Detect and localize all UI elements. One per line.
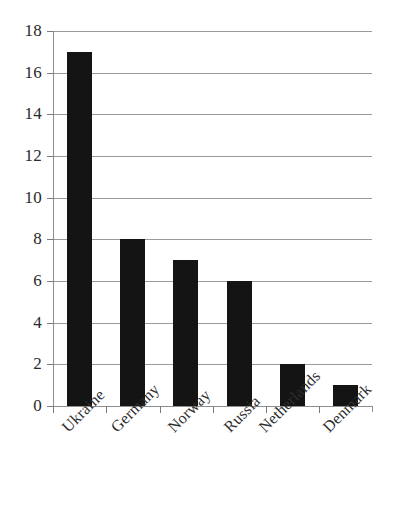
- x-axis-end-tick: [372, 406, 373, 412]
- y-tick-mark-18: [47, 31, 54, 32]
- y-tick-label-12: 12: [2, 147, 42, 164]
- x-tick-mark-1: [106, 406, 107, 413]
- x-tick-mark-3: [213, 406, 214, 413]
- y-tick-mark-6: [47, 281, 54, 282]
- y-tick-mark-12: [47, 156, 54, 157]
- x-tick-mark-2: [160, 406, 161, 413]
- plot-area: [53, 31, 372, 406]
- y-tick-label-4: 4: [2, 314, 42, 331]
- y-tick-mark-2: [47, 364, 54, 365]
- gridline-2: [53, 364, 372, 365]
- bar-chart: 18 16 14 12 10 8 6 4 2 0 Ukraine Germany…: [0, 0, 394, 507]
- gridline-8: [53, 239, 372, 240]
- y-tick-mark-14: [47, 114, 54, 115]
- y-tick-mark-8: [47, 239, 54, 240]
- y-tick-label-0: 0: [2, 397, 42, 414]
- y-tick-label-16: 16: [2, 64, 42, 81]
- y-tick-label-8: 8: [2, 230, 42, 247]
- y-tick-mark-16: [47, 73, 54, 74]
- y-tick-label-14: 14: [2, 105, 42, 122]
- gridline-14: [53, 114, 372, 115]
- bar-russia: [227, 281, 252, 406]
- y-tick-mark-4: [47, 323, 54, 324]
- x-tick-mark-5: [319, 406, 320, 413]
- gridline-10: [53, 198, 372, 199]
- y-tick-label-10: 10: [2, 189, 42, 206]
- y-tick-label-18: 18: [2, 22, 42, 39]
- y-tick-mark-10: [47, 198, 54, 199]
- bar-ukraine: [67, 52, 92, 406]
- bar-germany: [120, 239, 145, 406]
- gridline-18: [53, 31, 372, 32]
- y-tick-label-6: 6: [2, 272, 42, 289]
- bar-norway: [173, 260, 198, 406]
- y-axis-line: [53, 31, 54, 407]
- gridline-6: [53, 281, 372, 282]
- x-tick-mark-0: [53, 406, 54, 413]
- gridline-16: [53, 73, 372, 74]
- gridline-12: [53, 156, 372, 157]
- y-tick-label-2: 2: [2, 355, 42, 372]
- gridline-4: [53, 323, 372, 324]
